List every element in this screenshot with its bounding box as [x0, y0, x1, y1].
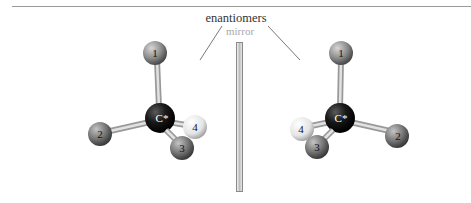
pointer-line-right — [268, 26, 300, 60]
svg-text:3: 3 — [314, 141, 320, 153]
svg-text:4: 4 — [298, 123, 304, 135]
svg-text:2: 2 — [97, 128, 103, 140]
svg-text:C*: C* — [335, 112, 348, 124]
molecule-left: 4 1 2 C* 3 — [88, 41, 207, 160]
pointer-line-left — [200, 26, 222, 60]
svg-text:C*: C* — [156, 112, 169, 124]
svg-text:3: 3 — [179, 142, 185, 154]
svg-text:1: 1 — [338, 47, 344, 59]
molecule-right: 4 1 2 C* 3 — [290, 41, 409, 159]
svg-text:2: 2 — [395, 130, 401, 142]
svg-text:4: 4 — [192, 121, 198, 133]
svg-text:1: 1 — [152, 47, 158, 59]
diagram-canvas: 4 1 2 C* 3 4 1 2 C* 3 — [0, 0, 471, 203]
